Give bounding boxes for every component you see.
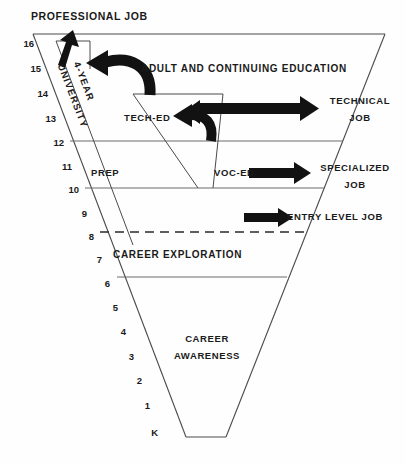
grade-label-16: 16 bbox=[18, 38, 34, 49]
grade-label-15: 15 bbox=[25, 63, 41, 74]
technical-job-label-line2: JOB bbox=[318, 112, 402, 123]
tech-ed-label: TECH-ED bbox=[124, 112, 170, 123]
career-awareness-label-line1: CAREER bbox=[152, 333, 262, 344]
grade-label-3: 3 bbox=[118, 351, 134, 362]
career-exploration-label: CAREER EXPLORATION bbox=[113, 249, 242, 260]
entry-level-job-label: ENTRY LEVEL JOB bbox=[287, 211, 383, 222]
grade-label-7: 7 bbox=[86, 254, 102, 265]
grade-label-1: 1 bbox=[134, 400, 150, 411]
arrow-tech-ed-to-technical-job bbox=[196, 96, 319, 121]
grade-label-8: 8 bbox=[78, 231, 94, 242]
grade-label-10: 10 bbox=[63, 184, 79, 195]
arrow-voc-ed-to-specialized-job bbox=[249, 162, 311, 184]
grade-label-K: K bbox=[142, 427, 158, 438]
grade-label-12: 12 bbox=[48, 137, 64, 148]
prep-label: PREP bbox=[91, 167, 119, 178]
professional-job-label: PROFESSIONAL JOB bbox=[31, 10, 148, 22]
specialized-job-label-line2: JOB bbox=[306, 179, 404, 190]
adult-continuing-education-label: ADULT AND CONTINUING EDUCATION bbox=[141, 63, 347, 74]
grade-label-2: 2 bbox=[126, 375, 142, 386]
grade-label-13: 13 bbox=[40, 113, 56, 124]
grade-label-9: 9 bbox=[71, 208, 87, 219]
grade-label-14: 14 bbox=[32, 88, 48, 99]
grade-label-4: 4 bbox=[110, 326, 126, 337]
technical-job-label-line1: TECHNICAL bbox=[318, 95, 402, 106]
grade-label-11: 11 bbox=[56, 161, 72, 172]
career-awareness-label-line2: AWARENESS bbox=[152, 350, 262, 361]
voc-ed-label: VOC-ED bbox=[214, 167, 255, 178]
grade-label-5: 5 bbox=[102, 302, 118, 313]
grade-label-6: 6 bbox=[94, 278, 110, 289]
funnel-diagram-canvas: PROFESSIONAL JOB ADULT AND CONTINUING ED… bbox=[0, 0, 406, 465]
arrow-to-entry-level-job bbox=[244, 208, 293, 227]
specialized-job-label-line1: SPECIALIZED bbox=[306, 162, 404, 173]
